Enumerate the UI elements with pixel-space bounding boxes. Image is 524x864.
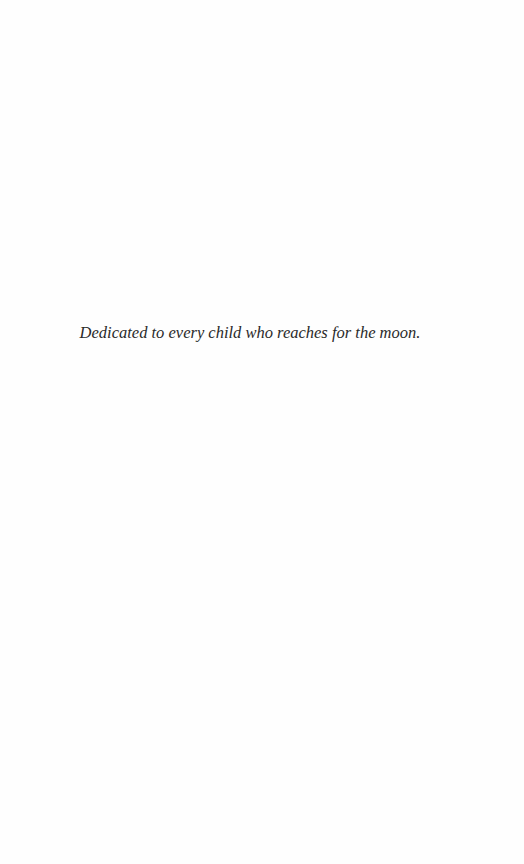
book-page: Dedicated to every child who reaches for… [0,0,524,864]
dedication-text: Dedicated to every child who reaches for… [0,323,500,343]
